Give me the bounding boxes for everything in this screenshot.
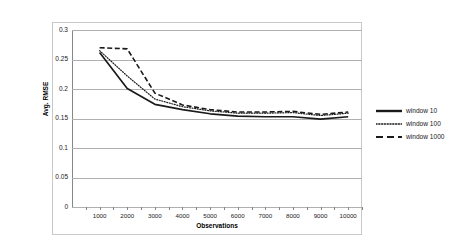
legend-label: window 1000 — [406, 133, 445, 141]
x-axis-tick-mark — [321, 207, 322, 210]
x-axis-tick-mark — [127, 207, 128, 210]
gridlines-and-series — [72, 30, 362, 207]
x-axis-minor-tick — [252, 207, 253, 210]
y-axis-tick-label: 0.1 — [38, 145, 68, 152]
x-axis-minor-tick — [224, 207, 225, 210]
y-axis-tick-label: 0.3 — [38, 27, 68, 34]
x-axis-minor-tick — [86, 207, 87, 210]
x-axis-tick-mark — [155, 207, 156, 210]
y-axis-tick-label: 0.05 — [38, 174, 68, 181]
x-axis-tick-mark — [293, 207, 294, 210]
series-lines — [72, 30, 362, 208]
series-line-window-100 — [100, 51, 349, 116]
plot-area — [72, 30, 362, 207]
y-axis-tick-label: 0.25 — [38, 56, 68, 63]
y-axis-tick-labels: 00.050.10.150.20.250.3 — [36, 0, 68, 251]
x-axis-title: Observations — [72, 222, 362, 230]
chart-legend: window 10window 100window 1000 — [376, 104, 468, 143]
legend-item-window-100[interactable]: window 100 — [376, 117, 468, 130]
x-axis-minor-tick — [113, 207, 114, 210]
x-axis-tick-label: 10000 — [328, 212, 368, 219]
legend-label: window 10 — [406, 107, 437, 115]
legend-label: window 100 — [406, 120, 441, 128]
legend-swatch-dashed-icon — [376, 133, 402, 141]
y-axis-title: Avg. RMSE — [42, 69, 50, 129]
x-axis-minor-tick — [334, 207, 335, 210]
legend-item-window-1000[interactable]: window 1000 — [376, 130, 468, 143]
x-axis-minor-tick — [307, 207, 308, 210]
x-axis-minor-tick — [141, 207, 142, 210]
x-axis-minor-tick — [362, 207, 363, 210]
y-axis-tick-label: 0 — [38, 204, 68, 211]
x-axis-tick-mark — [265, 207, 266, 210]
legend-swatch-solid-icon — [376, 107, 402, 115]
x-axis-tick-mark — [100, 207, 101, 210]
legend-item-window-10[interactable]: window 10 — [376, 104, 468, 117]
legend-swatch-dotted-icon — [376, 120, 402, 128]
x-axis-minor-tick — [196, 207, 197, 210]
series-line-window-1000 — [100, 48, 349, 115]
x-axis-tick-mark — [182, 207, 183, 210]
x-axis-tick-mark — [348, 207, 349, 210]
x-axis-minor-tick — [169, 207, 170, 210]
x-axis-tick-mark — [210, 207, 211, 210]
x-axis-minor-tick — [279, 207, 280, 210]
x-axis-tick-mark — [238, 207, 239, 210]
series-line-window-10 — [100, 52, 349, 119]
